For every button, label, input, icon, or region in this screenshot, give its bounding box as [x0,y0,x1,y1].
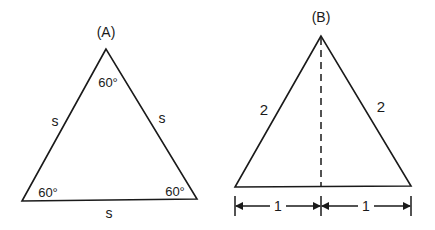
triangle-a [22,49,197,201]
base-right-length: 1 [362,198,370,214]
side-left-length: 2 [260,101,268,118]
side-bottom-label: s [106,205,113,221]
panel-b-label: (B) [312,9,331,25]
diagram-canvas: (A) 60° 60° 60° s s s (B) 2 2 1 1 [0,0,435,230]
panel-a-label: (A) [97,24,116,40]
angle-top-label: 60° [98,75,118,90]
angle-bottom-right-label: 60° [165,184,185,199]
angle-bottom-left-label: 60° [38,185,58,200]
panel-a: (A) 60° 60° 60° s s s [22,24,197,221]
side-right-length: 2 [377,98,385,115]
side-right-label: s [159,110,166,126]
panel-b: (B) 2 2 1 1 [235,9,411,216]
base-left-length: 1 [274,198,282,214]
side-left-label: s [52,113,59,129]
